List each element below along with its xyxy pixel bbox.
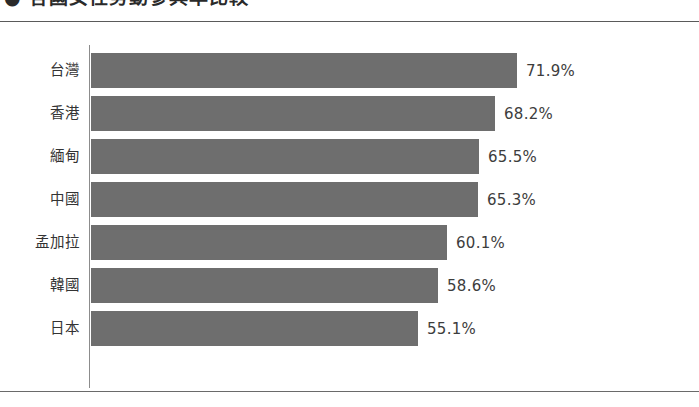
chart-title: ● 各國女性勞動參與率比較 (4, 0, 249, 8)
category-label: 中國 (0, 182, 80, 217)
bar-row: 韓國58.6% (0, 268, 699, 303)
chart-title-area: ● 各國女性勞動參與率比較 (0, 0, 699, 12)
bar-chart-plot-area: 台灣71.9%香港68.2%緬甸65.5%中國65.3%孟加拉60.1%韓國58… (0, 22, 699, 391)
bar (91, 53, 517, 88)
bar-value-label: 65.3% (487, 182, 536, 217)
category-label: 香港 (0, 96, 80, 131)
bar (91, 182, 478, 217)
footer-divider-rule (0, 391, 699, 392)
bar-value-label: 58.6% (447, 268, 496, 303)
bar-value-label: 60.1% (456, 225, 505, 260)
bar-value-label: 55.1% (427, 311, 476, 346)
bar-row: 緬甸65.5% (0, 139, 699, 174)
category-label: 韓國 (0, 268, 80, 303)
bar-row: 孟加拉60.1% (0, 225, 699, 260)
bar-value-label: 68.2% (504, 96, 553, 131)
bar-row: 日本55.1% (0, 311, 699, 346)
category-label: 緬甸 (0, 139, 80, 174)
bar-row: 中國65.3% (0, 182, 699, 217)
bar (91, 225, 447, 260)
bar (91, 139, 479, 174)
category-label: 孟加拉 (0, 225, 80, 260)
category-label: 日本 (0, 311, 80, 346)
bar-value-label: 71.9% (526, 53, 575, 88)
bar (91, 311, 418, 346)
bar-row: 香港68.2% (0, 96, 699, 131)
bar-row: 台灣71.9% (0, 53, 699, 88)
bar (91, 96, 495, 131)
bar-value-label: 65.5% (488, 139, 537, 174)
bar (91, 268, 438, 303)
category-label: 台灣 (0, 53, 80, 88)
